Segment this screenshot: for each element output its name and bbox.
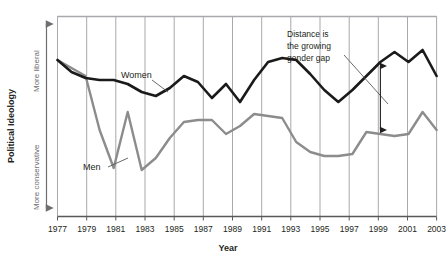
x-tick-label: 1977 xyxy=(48,224,67,234)
x-tick-label: 1985 xyxy=(165,224,184,234)
x-tick-label: 1993 xyxy=(281,224,300,234)
y-axis-top-label: More liberal xyxy=(32,50,41,92)
annotation-line-1: Distance is xyxy=(287,29,329,39)
x-tick-label: 1987 xyxy=(194,224,213,234)
annotation-line-2: the growing xyxy=(287,41,331,51)
series-label-men: Men xyxy=(83,162,101,172)
series-label-women: Women xyxy=(121,70,152,80)
x-tick-label: 1997 xyxy=(340,224,359,234)
x-tick-label: 2001 xyxy=(398,224,417,234)
x-tick-label: 1999 xyxy=(369,224,388,234)
x-tick-label: 1991 xyxy=(252,224,271,234)
political-ideology-line-chart: More liberal More conservative Political… xyxy=(0,0,447,259)
y-axis-title: Political Ideology xyxy=(6,89,16,163)
x-tick-label: 1989 xyxy=(223,224,242,234)
x-tick-label: 1981 xyxy=(106,224,125,234)
x-axis-title: Year xyxy=(218,243,238,253)
x-tick-label: 1983 xyxy=(136,224,155,234)
x-tick-label: 1979 xyxy=(77,224,96,234)
chart-figure: More liberal More conservative Political… xyxy=(0,0,447,259)
annotation-line-3: gender gap xyxy=(287,53,330,63)
y-axis-bottom-label: More conservative xyxy=(32,144,41,210)
x-tick-label: 1995 xyxy=(311,224,330,234)
x-tick-label: 2003 xyxy=(427,224,446,234)
